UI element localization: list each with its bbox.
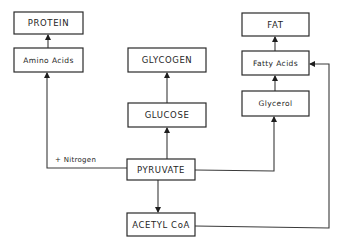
node-glycerol-label: Glycerol <box>259 99 293 108</box>
node-glycerol: Glycerol <box>242 91 309 116</box>
node-fat: FAT <box>242 13 309 36</box>
metabolism-diagram: + Nitrogen PROTEIN Amino Acids GLYCOGEN … <box>0 0 339 245</box>
node-fatty-acids: Fatty Acids <box>242 51 309 75</box>
node-protein-label: PROTEIN <box>28 18 69 28</box>
node-glucose: GLUCOSE <box>128 103 206 127</box>
nitrogen-label: + Nitrogen <box>55 156 96 164</box>
edge-acetyl-coa-to-fatty-acids <box>195 64 329 228</box>
node-amino-acids-label: Amino Acids <box>23 56 74 65</box>
node-protein: PROTEIN <box>14 12 83 34</box>
node-glucose-label: GLUCOSE <box>145 110 190 120</box>
node-acetyl-coa: ACETYL CoA <box>127 213 195 236</box>
node-glycogen: GLYCOGEN <box>128 48 206 72</box>
edge-pyruvate-to-amino-acids <box>47 73 127 168</box>
node-pyruvate: PYRUVATE <box>127 159 195 180</box>
node-fat-label: FAT <box>267 20 283 30</box>
edge-pyruvate-to-glycerol <box>195 117 274 171</box>
node-glycogen-label: GLYCOGEN <box>142 55 193 65</box>
node-amino-acids: Amino Acids <box>14 48 83 72</box>
node-acetyl-coa-label: ACETYL CoA <box>132 220 190 230</box>
node-fatty-acids-label: Fatty Acids <box>253 59 298 68</box>
node-pyruvate-label: PYRUVATE <box>137 165 185 175</box>
